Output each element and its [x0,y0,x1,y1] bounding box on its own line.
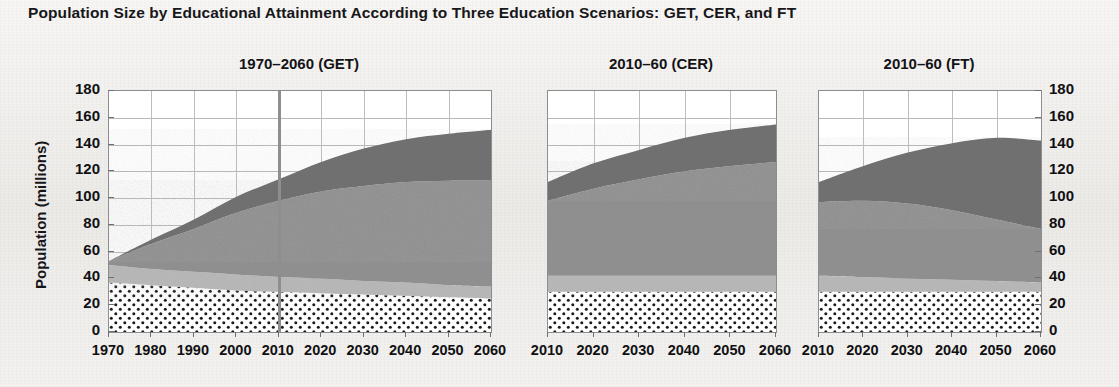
x-tick-mark [907,332,908,337]
y-tick-label: 140 [56,134,100,151]
y-tick-label: 100 [56,187,100,204]
x-tick-mark [547,332,548,337]
y-tick-label: 160 [56,107,100,124]
x-tick-mark [593,332,594,337]
plot-area-cer[interactable] [547,90,777,333]
stacked-area-series-ft [819,91,1041,332]
panel-title-get: 1970–2060 (GET) [108,55,490,72]
y-tick-label: 100 [1049,187,1093,204]
x-tick-mark [775,332,776,337]
y-tick-mark [108,170,114,171]
x-tick-mark [684,332,685,337]
x-tick-mark [448,332,449,337]
x-tick-label: 2060 [460,342,520,358]
y-tick-mark [108,144,114,145]
y-tick-label: 40 [56,267,100,284]
y-tick-label: 80 [1049,214,1093,231]
stacked-area-series-cer [548,91,776,332]
y-tick-label: 20 [1049,294,1093,311]
y-tick-mark [1035,331,1041,332]
x-tick-mark [638,332,639,337]
x-tick-mark [1040,332,1041,337]
y-tick-label: 80 [56,214,100,231]
y-tick-label: 20 [56,294,100,311]
figure-title: Population Size by Educational Attainmen… [28,4,796,22]
y-tick-label: 60 [1049,241,1093,258]
x-tick-mark [405,332,406,337]
panel-title-cer: 2010–60 (CER) [547,55,775,72]
y-tick-label: 120 [1049,160,1093,177]
y-tick-mark [1035,117,1041,118]
x-tick-label: 2060 [1010,342,1070,358]
y-axis-label: Population (millions) [32,140,49,288]
y-tick-mark [108,251,114,252]
plot-area-get[interactable] [108,90,492,333]
y-tick-label: 120 [56,160,100,177]
y-tick-label: 140 [1049,134,1093,151]
y-tick-mark [108,90,114,91]
x-tick-mark [729,332,730,337]
y-tick-mark [1035,304,1041,305]
x-tick-mark [193,332,194,337]
y-tick-mark [1035,144,1041,145]
x-tick-mark [150,332,151,337]
x-tick-mark [235,332,236,337]
y-tick-label: 180 [1049,80,1093,97]
y-tick-mark [1035,224,1041,225]
y-tick-label: 0 [56,321,100,338]
figure-body: Population (millions) 1970–2060 (GET) 20… [14,31,1106,383]
y-tick-mark [108,197,114,198]
panel-title-ft: 2010–60 (FT) [818,55,1040,72]
x-tick-mark [862,332,863,337]
y-tick-mark [1035,277,1041,278]
y-tick-mark [1035,197,1041,198]
y-tick-mark [108,304,114,305]
x-tick-mark [490,332,491,337]
y-tick-mark [108,331,114,332]
y-tick-mark [108,224,114,225]
year-marker-line [278,91,281,332]
x-tick-mark [108,332,109,337]
area-band-light-gray [548,276,776,292]
y-tick-mark [1035,170,1041,171]
x-tick-mark [278,332,279,337]
y-tick-label: 40 [1049,267,1093,284]
y-tick-label: 60 [56,241,100,258]
area-band-dotted [819,292,1041,332]
y-tick-mark [1035,251,1041,252]
y-tick-mark [108,277,114,278]
stacked-area-series-get [109,91,491,332]
y-tick-mark [1035,90,1041,91]
x-tick-mark [996,332,997,337]
area-band-dotted [548,292,776,332]
x-tick-mark [951,332,952,337]
y-tick-mark [108,117,114,118]
x-tick-mark [320,332,321,337]
y-tick-label: 180 [56,80,100,97]
x-tick-mark [363,332,364,337]
y-tick-label: 160 [1049,107,1093,124]
y-tick-label: 0 [1049,321,1093,338]
plot-area-ft[interactable] [818,90,1042,333]
x-tick-mark [818,332,819,337]
